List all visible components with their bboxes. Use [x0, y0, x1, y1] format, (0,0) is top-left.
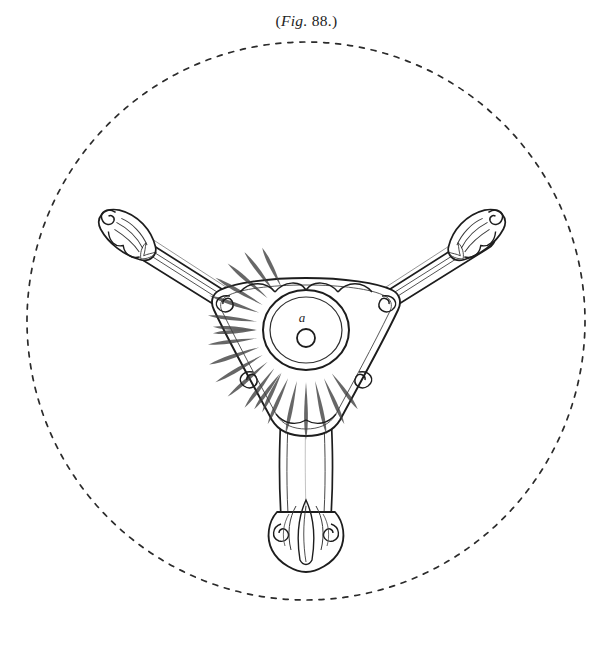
hub-point-label-a: a — [299, 310, 306, 325]
central-rosette-hub: a — [190, 234, 400, 440]
engraving-plate: (Fig. 88.) — [0, 0, 613, 649]
tripod-base-illustration: a — [0, 0, 613, 649]
hub-center-pin — [297, 329, 315, 347]
